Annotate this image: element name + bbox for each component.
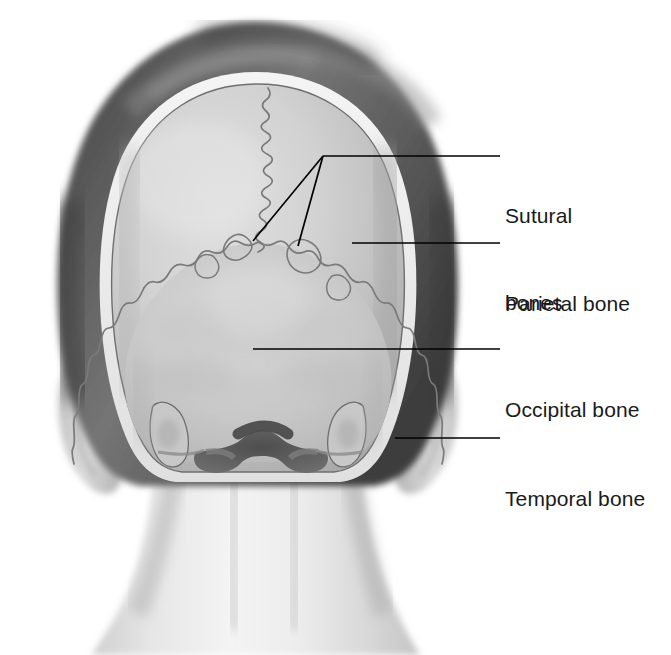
- label-sutural-bones-line-1: Sutural: [505, 201, 572, 230]
- label-occipital-bone-line-1: Occipital bone: [505, 395, 639, 424]
- label-temporal-bone-line-1: Temporal bone: [505, 484, 645, 513]
- anatomy-figure: Sutural bones Parietal bone Occipital bo…: [0, 0, 671, 655]
- label-temporal-bone: Temporal bone: [505, 426, 645, 571]
- label-parietal-bone-line-1: Parietal bone: [505, 289, 630, 318]
